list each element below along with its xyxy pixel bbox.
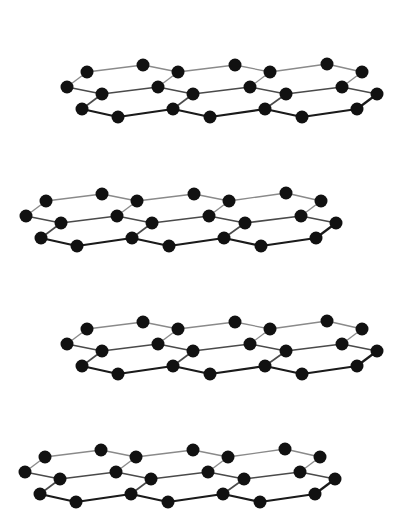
carbon-bond	[302, 366, 357, 374]
carbon-atom	[202, 466, 215, 479]
layer-1	[61, 58, 384, 124]
carbon-bond	[270, 64, 327, 72]
carbon-atom	[167, 360, 180, 373]
carbon-atom	[315, 195, 328, 208]
carbon-bond	[302, 109, 357, 117]
carbon-atom	[280, 88, 293, 101]
carbon-atom	[310, 232, 323, 245]
carbon-atom	[229, 316, 242, 329]
carbon-atom	[279, 443, 292, 456]
carbon-atom	[54, 473, 67, 486]
carbon-bond	[77, 238, 132, 246]
carbon-atom	[61, 81, 74, 94]
carbon-atom	[112, 111, 125, 124]
carbon-atom	[204, 111, 217, 124]
carbon-atom	[110, 466, 123, 479]
carbon-atom	[188, 188, 201, 201]
carbon-bond	[169, 238, 224, 246]
carbon-atom	[71, 240, 84, 253]
carbon-atom	[152, 338, 165, 351]
carbon-bond	[45, 450, 101, 457]
carbon-atom	[35, 232, 48, 245]
carbon-atom	[61, 338, 74, 351]
carbon-bond	[245, 216, 301, 223]
carbon-atom	[203, 210, 216, 223]
carbon-atom	[280, 187, 293, 200]
carbon-atom	[356, 66, 369, 79]
carbon-bond	[261, 238, 316, 246]
layer-4	[19, 443, 342, 509]
carbon-atom	[371, 88, 384, 101]
carbon-bond	[87, 322, 143, 329]
carbon-bond	[61, 216, 117, 223]
carbon-atom	[229, 59, 242, 72]
carbon-atom	[81, 66, 94, 79]
carbon-atom	[162, 496, 175, 509]
carbon-atom	[295, 210, 308, 223]
carbon-bond	[210, 366, 265, 374]
carbon-bond	[193, 87, 250, 94]
carbon-atom	[371, 345, 384, 358]
carbon-bond	[76, 494, 131, 502]
carbon-atom	[255, 240, 268, 253]
carbon-atom	[314, 451, 327, 464]
carbon-atom	[336, 81, 349, 94]
carbon-atom	[218, 232, 231, 245]
carbon-bond	[102, 344, 158, 351]
carbon-atom	[321, 58, 334, 71]
carbon-atom	[296, 111, 309, 124]
carbon-bond	[168, 494, 223, 502]
carbon-bond	[210, 109, 265, 117]
carbon-bond	[152, 216, 209, 223]
graphene-layers-diagram	[0, 0, 411, 517]
carbon-atom	[244, 338, 257, 351]
carbon-atom	[55, 217, 68, 230]
carbon-atom	[296, 368, 309, 381]
carbon-atom	[126, 232, 139, 245]
carbon-bond	[193, 344, 250, 351]
carbon-atom	[238, 473, 251, 486]
carbon-atom	[356, 323, 369, 336]
carbon-atom	[96, 88, 109, 101]
layer-2	[20, 187, 343, 253]
carbon-atom	[187, 444, 200, 457]
carbon-bond	[286, 87, 342, 94]
carbon-bond	[87, 65, 143, 72]
carbon-atom	[239, 217, 252, 230]
carbon-atom	[95, 444, 108, 457]
carbon-atom	[309, 488, 322, 501]
carbon-bond	[228, 449, 285, 457]
carbon-atom	[244, 81, 257, 94]
carbon-atom	[259, 103, 272, 116]
carbon-atom	[163, 240, 176, 253]
carbon-atom	[137, 59, 150, 72]
carbon-atom	[172, 323, 185, 336]
carbon-atom	[96, 188, 109, 201]
carbon-atom	[130, 451, 143, 464]
carbon-atom	[146, 217, 159, 230]
carbon-atom	[222, 451, 235, 464]
carbon-atom	[264, 66, 277, 79]
carbon-atom	[187, 345, 200, 358]
carbon-atom	[280, 345, 293, 358]
carbon-atom	[351, 103, 364, 116]
carbon-atom	[96, 345, 109, 358]
carbon-atom	[137, 316, 150, 329]
carbon-atom	[264, 323, 277, 336]
carbon-atom	[34, 488, 47, 501]
carbon-atom	[351, 360, 364, 373]
carbon-bond	[286, 344, 342, 351]
carbon-bond	[102, 87, 158, 94]
carbon-atom	[76, 103, 89, 116]
carbon-atom	[76, 360, 89, 373]
carbon-atom	[20, 210, 33, 223]
carbon-bond	[60, 472, 116, 479]
carbon-bond	[136, 450, 193, 457]
carbon-bond	[178, 322, 235, 329]
carbon-bond	[229, 193, 286, 201]
carbon-atom	[167, 103, 180, 116]
carbon-atom	[187, 88, 200, 101]
carbon-bond	[137, 194, 194, 201]
carbon-bond	[178, 65, 235, 72]
carbon-atom	[111, 210, 124, 223]
